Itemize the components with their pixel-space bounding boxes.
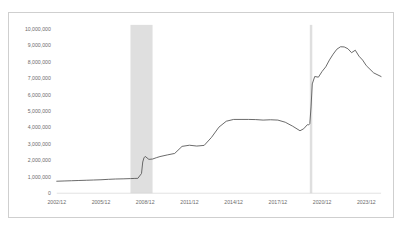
y-axis-tick-label: 0 [48, 190, 51, 196]
window-top-strip [0, 0, 403, 8]
chart-card: 01,000,0002,000,0003,000,0004,000,0005,0… [8, 12, 394, 218]
y-axis-tick-label: 6,000,000 [28, 92, 51, 98]
y-axis-tick-label: 3,000,000 [28, 141, 51, 147]
x-axis-tick-label: 2005/12 [92, 199, 111, 205]
plot-area: 01,000,0002,000,0003,000,0004,000,0005,0… [9, 13, 393, 217]
x-axis-tick-label: 2008/12 [136, 199, 155, 205]
x-axis-tick-label: 2023/12 [357, 199, 376, 205]
x-axis-tick-label: 2002/12 [47, 199, 66, 205]
y-axis-tick-label: 8,000,000 [28, 59, 51, 65]
x-axis-tick-label: 2014/12 [224, 199, 243, 205]
y-axis-tick-label: 9,000,000 [28, 42, 51, 48]
x-axis-tick-label: 2020/12 [313, 199, 332, 205]
series-line-1 [57, 47, 381, 181]
recession-band-1 [130, 25, 152, 193]
line-chart: 01,000,0002,000,0003,000,0004,000,0005,0… [9, 13, 393, 217]
y-axis-tick-label: 10,000,000 [25, 26, 51, 32]
y-axis-tick-label: 7,000,000 [28, 75, 51, 81]
x-axis-tick-label: 2011/12 [180, 199, 198, 205]
y-axis-tick-label: 5,000,000 [28, 108, 51, 114]
y-axis-tick-label: 2,000,000 [28, 157, 51, 163]
y-axis-tick-label: 4,000,000 [28, 124, 51, 130]
y-axis-tick-label: 1,000,000 [28, 174, 51, 180]
x-axis-tick-label: 2017/12 [269, 199, 288, 205]
